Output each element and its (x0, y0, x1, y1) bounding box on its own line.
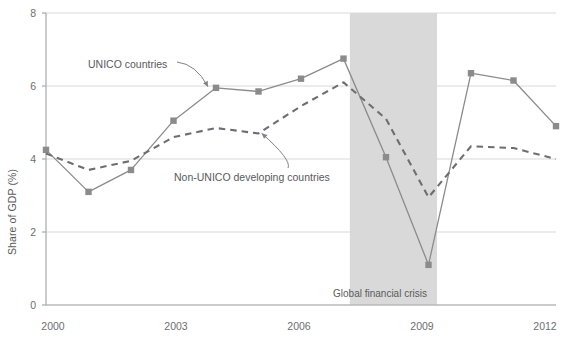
y-tick-4: 4 (10, 153, 36, 165)
x-tick-2003: 2003 (164, 320, 187, 332)
y-tick-0: 0 (10, 299, 36, 311)
annotation-global-financial-crisis: Global financial crisis (333, 288, 427, 299)
data-point-marker (43, 147, 49, 153)
data-point-marker (298, 76, 304, 82)
data-point-marker (510, 77, 516, 83)
chart-figure: Share of GDP (%) 8 6 4 2 0 2000 2003 200… (0, 0, 567, 350)
x-tick-2000: 2000 (41, 320, 64, 332)
y-tick-8: 8 (10, 7, 36, 19)
series-layer (43, 55, 559, 268)
annotation-non-unico-countries: Non-UNICO developing countries (174, 171, 330, 183)
x-tick-2012: 2012 (533, 320, 556, 332)
x-tick-2006: 2006 (287, 320, 310, 332)
data-point-marker (383, 154, 389, 160)
annotation-leader (262, 133, 289, 168)
annotation-arrow-layer (177, 62, 288, 168)
y-tick-2: 2 (10, 226, 36, 238)
data-point-marker (340, 55, 346, 61)
data-point-marker (468, 70, 474, 76)
data-point-marker (85, 189, 91, 195)
data-point-marker (553, 123, 559, 129)
x-tick-2009: 2009 (410, 320, 433, 332)
data-point-marker (213, 85, 219, 91)
data-point-marker (425, 262, 431, 268)
gridline-layer (46, 13, 556, 305)
data-point-marker (170, 117, 176, 123)
data-point-marker (255, 88, 261, 94)
annotation-unico-countries: UNICO countries (88, 58, 167, 70)
y-tick-6: 6 (10, 80, 36, 92)
data-point-marker (128, 167, 134, 173)
